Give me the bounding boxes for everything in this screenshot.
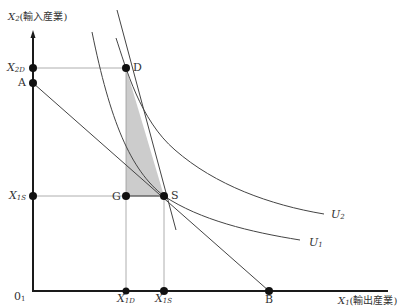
trade-diagram: X2(輸入産業) X1(輸出産業) 01 X2D A X1S X1D X1S B… (0, 0, 408, 306)
diagram-canvas (0, 0, 408, 306)
curve-sub: 2 (340, 213, 344, 221)
label-b: B (265, 293, 273, 306)
label-g: G (112, 190, 121, 203)
x-axis-title: X1(輸出産業) (338, 292, 397, 306)
figure-title-clipped (130, 0, 290, 4)
indifference-curve-u1 (92, 32, 300, 240)
tick-symbol: X (117, 292, 125, 305)
tick-x1d: X1D (117, 292, 135, 305)
curve-symbol: U (309, 236, 318, 249)
label-s: S (171, 189, 179, 202)
origin-sub: 1 (21, 295, 25, 303)
label-u2: U2 (331, 208, 345, 221)
origin-text: 0 (14, 290, 21, 303)
y-axis-title: X2(輸入産業) (8, 8, 67, 23)
tick-symbol: X (155, 292, 163, 305)
point-x2s (29, 192, 37, 200)
tick-sub: 1S (163, 297, 172, 305)
label-a: A (18, 76, 26, 89)
label-d: D (133, 61, 142, 74)
tick-x2d: X2D (7, 61, 25, 74)
point-s (160, 192, 168, 200)
y-axis-label: (輸入産業) (20, 11, 68, 22)
curve-sub: 1 (318, 241, 322, 249)
point-a (29, 79, 37, 87)
tick-sub: 1D (125, 297, 135, 305)
y-axis-arrow-icon (31, 30, 36, 38)
point-d (122, 64, 130, 72)
x-axis-label: (輸出産業) (350, 295, 398, 306)
tick-x1s: X1S (155, 292, 172, 305)
tick-sub: 2D (15, 66, 25, 74)
tick-symbol: X (9, 189, 17, 202)
tick-symbol: X (7, 61, 15, 74)
curve-symbol: U (331, 208, 340, 221)
point-x2d (29, 64, 37, 72)
tick-sub: 1S (17, 194, 26, 202)
point-g (122, 192, 130, 200)
label-u1: U1 (309, 236, 323, 249)
origin-label: 01 (14, 290, 25, 303)
tick-x2s: X1S (9, 189, 26, 202)
